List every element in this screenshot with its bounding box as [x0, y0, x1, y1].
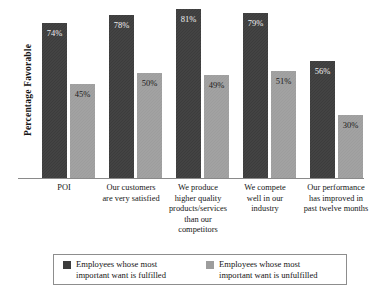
bar-value-label: 49% — [204, 80, 229, 90]
legend-swatch-dark-icon — [63, 261, 71, 269]
bar-unfulfilled-compete-well[interactable]: 51% — [271, 71, 296, 178]
category-label-performance-improved: Our performance has improved in past twe… — [290, 183, 382, 215]
bar-fulfilled-compete-well[interactable]: 79% — [243, 13, 268, 178]
legend-label-fulfilled: Employees whose most important want is f… — [76, 259, 166, 281]
bar-value-label: 50% — [137, 78, 162, 88]
bar-unfulfilled-higher-quality[interactable]: 49% — [204, 75, 229, 178]
bar-unfulfilled-poi[interactable]: 45% — [70, 84, 95, 178]
bar-chart: Percentage Favorable 74% 45% 78% 50% 81%… — [0, 0, 384, 297]
bar-fulfilled-poi[interactable]: 74% — [42, 23, 67, 178]
bar-value-label: 45% — [70, 89, 95, 99]
plot-area: 74% 45% 78% 50% 81% 49% 79% — [24, 6, 374, 178]
bar-fulfilled-performance-improved[interactable]: 56% — [310, 61, 335, 178]
chart-legend: Employees whose most important want is f… — [53, 254, 347, 285]
bar-unfulfilled-customers-satisfied[interactable]: 50% — [137, 73, 162, 178]
legend-item-fulfilled[interactable]: Employees whose most important want is f… — [63, 259, 203, 281]
bar-value-label: 74% — [42, 28, 67, 38]
bar-value-label: 79% — [243, 18, 268, 28]
bar-value-label: 51% — [271, 76, 296, 86]
bar-value-label: 56% — [310, 66, 335, 76]
bar-fulfilled-higher-quality[interactable]: 81% — [176, 9, 201, 178]
legend-item-unfulfilled[interactable]: Employees whose most important want is u… — [206, 259, 348, 281]
bar-value-label: 30% — [338, 120, 363, 130]
bar-fulfilled-customers-satisfied[interactable]: 78% — [109, 15, 134, 178]
bar-value-label: 81% — [176, 14, 201, 24]
x-axis-line — [18, 178, 364, 179]
legend-swatch-light-icon — [206, 261, 214, 269]
bar-value-label: 78% — [109, 20, 134, 30]
bar-unfulfilled-performance-improved[interactable]: 30% — [338, 115, 363, 178]
legend-label-unfulfilled: Employees whose most important want is u… — [219, 259, 318, 281]
